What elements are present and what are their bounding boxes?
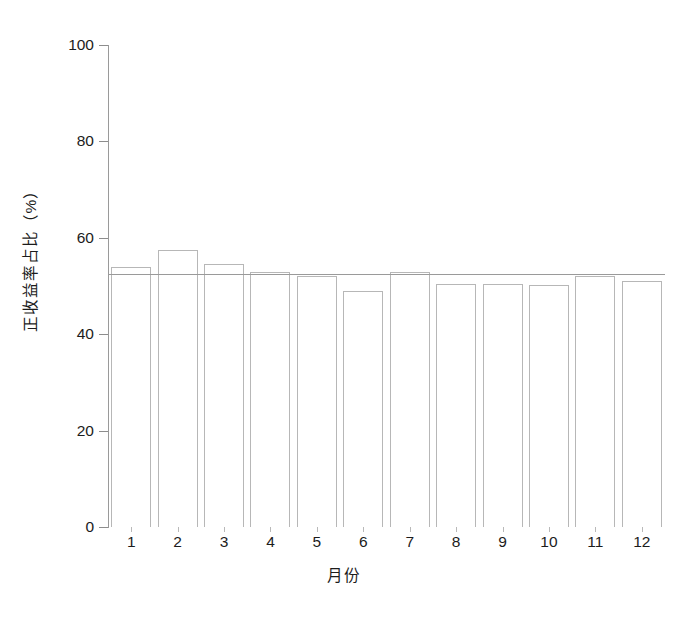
x-tick-label: 3 — [202, 534, 246, 550]
y-axis-title: 正收益率占比（%） — [18, 167, 40, 347]
x-tick-mark — [410, 527, 411, 532]
y-tick-mark — [99, 141, 108, 142]
y-axis-title-wrap: 正收益率占比（%） — [0, 0, 1, 1]
x-axis-title: 月份 — [0, 563, 688, 585]
y-tick-mark — [99, 238, 108, 239]
y-tick-label: 80 — [34, 133, 94, 149]
y-tick-label: 0 — [34, 519, 94, 535]
bar — [250, 272, 290, 527]
x-tick-mark — [270, 527, 271, 532]
bar — [436, 284, 476, 527]
x-tick-label: 11 — [573, 534, 617, 550]
x-tick-mark — [549, 527, 550, 532]
y-tick-mark — [99, 334, 108, 335]
y-tick-label: 40 — [34, 326, 94, 342]
bar — [575, 276, 615, 527]
bar — [390, 272, 430, 527]
bars-layer — [108, 45, 665, 527]
bar — [529, 285, 569, 527]
y-tick-label: 100 — [34, 37, 94, 53]
x-tick-mark — [178, 527, 179, 532]
bar-chart-figure: 020406080100 123456789101112 月份 正收益率占比（%… — [0, 0, 688, 623]
x-tick-mark — [503, 527, 504, 532]
y-tick-label: 20 — [34, 423, 94, 439]
average-reference-line — [108, 274, 665, 275]
x-tick-label: 9 — [481, 534, 525, 550]
x-tick-label: 7 — [388, 534, 432, 550]
x-tick-mark — [363, 527, 364, 532]
bar — [111, 267, 151, 527]
bar — [204, 264, 244, 527]
bar — [343, 291, 383, 527]
bar — [483, 284, 523, 527]
bar — [297, 276, 337, 527]
x-tick-label: 12 — [620, 534, 664, 550]
x-tick-mark — [456, 527, 457, 532]
x-tick-mark — [642, 527, 643, 532]
y-tick-label: 60 — [34, 230, 94, 246]
x-tick-label: 10 — [527, 534, 571, 550]
x-tick-mark — [317, 527, 318, 532]
x-tick-mark — [595, 527, 596, 532]
x-tick-label: 5 — [295, 534, 339, 550]
y-tick-mark — [99, 45, 108, 46]
bar — [158, 250, 198, 527]
x-tick-label: 4 — [248, 534, 292, 550]
y-tick-mark — [99, 431, 108, 432]
x-tick-label: 1 — [109, 534, 153, 550]
x-tick-label: 6 — [341, 534, 385, 550]
x-tick-mark — [131, 527, 132, 532]
bar — [622, 281, 662, 527]
x-tick-label: 2 — [156, 534, 200, 550]
x-tick-label: 8 — [434, 534, 478, 550]
x-tick-mark — [224, 527, 225, 532]
y-tick-mark — [99, 527, 108, 528]
